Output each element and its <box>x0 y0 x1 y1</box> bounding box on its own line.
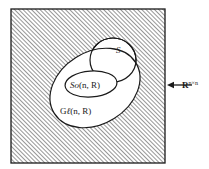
general-linear-group-label: Gℓ(n, R) <box>60 106 91 116</box>
matrix-group-diagram: So(n, R) Gℓ(n, R) S Rn×n <box>0 0 209 169</box>
special-orthogonal-group-label: So(n, R) <box>70 80 100 90</box>
ambient-space-label: Rn×n <box>182 80 198 90</box>
pointer-arrowhead <box>167 82 174 89</box>
figure-root: So(n, R) Gℓ(n, R) S Rn×n <box>0 0 209 169</box>
set-s-label: S <box>116 45 121 55</box>
